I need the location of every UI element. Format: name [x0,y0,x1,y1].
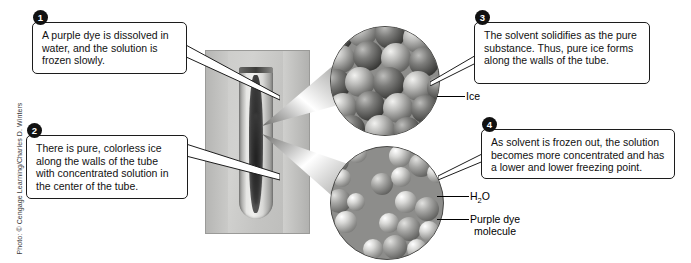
callout-box-2: There is pure, colorless ice along the w… [26,135,188,199]
callout-badge-4: 4 [482,117,497,132]
photo-credit: Photo: © Cengage Learning/Charles D. Win… [16,105,23,255]
callout-text-3: The solvent solidifies as the pure subst… [484,29,637,66]
leader-line-h2o [437,196,469,197]
label-h2o-h: H [470,190,478,202]
callout-badge-3: 3 [475,10,490,25]
label-ice: Ice [466,90,480,102]
callout-badge-1: 1 [33,10,48,25]
leader-callout-4 [438,148,486,180]
label-h2o: H2O [470,190,490,207]
label-dye-line1: Purple dye [470,213,520,225]
leader-callout-3 [430,52,478,86]
leader-callout-1 [184,40,280,102]
callout-text-2: There is pure, colorless ice along the w… [36,142,169,192]
ice-lattice-inset [330,26,440,136]
label-h2o-o: O [482,190,490,202]
solution-inset [330,146,444,260]
label-dye-line2: molecule [474,225,516,237]
callout-box-4: As solvent is frozen out, the solution b… [481,129,675,179]
callout-box-3: The solvent solidifies as the pure subst… [474,22,650,84]
figure-canvas: A purple dye is dissolved in water, and … [0,0,691,263]
label-purple-dye-molecule: Purple dyemolecule [470,213,520,237]
callout-text-4: As solvent is frozen out, the solution b… [491,136,664,173]
callout-box-1: A purple dye is dissolved in water, and … [32,22,187,74]
leader-line-ice [437,96,465,97]
leader-callout-2 [186,140,280,184]
leader-line-dye [437,219,469,220]
callout-badge-2: 2 [27,123,42,138]
callout-text-1: A purple dye is dissolved in water, and … [42,29,169,66]
